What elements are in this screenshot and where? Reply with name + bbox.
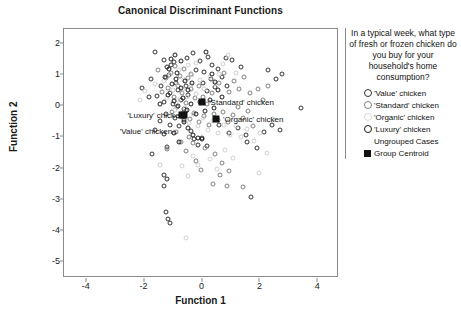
- data-point: [138, 97, 143, 102]
- x-tick-label: 4: [315, 281, 320, 291]
- legend-item[interactable]: Group Centroid: [349, 147, 457, 159]
- legend-item[interactable]: Ungrouped Cases: [349, 135, 457, 147]
- data-point: [172, 130, 177, 135]
- data-point: [266, 68, 271, 73]
- x-tick-label: 2: [257, 281, 262, 291]
- data-point: [202, 87, 207, 92]
- data-point: [226, 52, 231, 57]
- data-point: [255, 87, 260, 92]
- data-point: [213, 79, 218, 84]
- group-centroid-icon: [364, 150, 371, 157]
- data-point: [191, 141, 196, 146]
- data-point: [164, 209, 169, 214]
- data-point: [227, 169, 232, 174]
- y-tick-label: -1: [52, 131, 60, 141]
- data-point: [162, 78, 167, 83]
- data-point: [279, 72, 284, 77]
- legend-item[interactable]: 'Standard' chicken: [349, 99, 457, 111]
- data-point: [210, 181, 215, 186]
- data-point: [256, 171, 261, 176]
- data-point: [233, 124, 238, 129]
- open-circle-icon: [364, 125, 372, 133]
- y-tick-label: -5: [52, 256, 60, 266]
- y-tick-label: 0: [55, 100, 60, 110]
- data-point: [198, 77, 203, 82]
- data-point: [202, 108, 207, 113]
- y-tick-mark: [60, 74, 64, 75]
- data-point: [166, 93, 171, 98]
- legend-item[interactable]: 'Luxury' chicken: [349, 123, 457, 135]
- y-tick-mark: [60, 43, 64, 44]
- data-point: [216, 88, 221, 93]
- data-point: [194, 68, 199, 73]
- data-point: [278, 127, 283, 132]
- data-point: [181, 120, 186, 125]
- data-point: [245, 139, 250, 144]
- data-point: [157, 119, 162, 124]
- data-point: [205, 55, 210, 60]
- data-point: [178, 86, 183, 91]
- data-point: [251, 124, 256, 129]
- data-point: [209, 91, 214, 96]
- data-point: [209, 62, 214, 67]
- data-point: [264, 150, 269, 155]
- legend-item[interactable]: 'Organic' chicken: [349, 111, 457, 123]
- data-point: [190, 72, 195, 77]
- data-point: [152, 50, 157, 55]
- data-point: [189, 101, 194, 106]
- data-point: [221, 62, 226, 67]
- data-point: [200, 136, 205, 141]
- data-point: [169, 82, 174, 87]
- y-tick-label: -4: [52, 225, 60, 235]
- data-point: [190, 80, 195, 85]
- data-point: [201, 69, 206, 74]
- y-tick-mark: [60, 167, 64, 168]
- group-centroid-marker: [199, 99, 206, 106]
- group-centroid-label: 'Value' chicken: [120, 127, 172, 136]
- y-tick-label: -3: [52, 194, 60, 204]
- legend-item-label: Group Centroid: [374, 149, 429, 158]
- data-point: [240, 184, 245, 189]
- plot-frame: 'Luxury' chicken'Standard' chicken'Value…: [63, 28, 338, 277]
- legend-swatch-circle: [361, 101, 374, 109]
- y-tick-mark: [60, 136, 64, 137]
- data-point: [242, 74, 247, 79]
- legend-items: 'Value' chicken'Standard' chicken'Organi…: [349, 87, 457, 159]
- group-centroid-label: 'Luxury' chicken: [128, 110, 184, 119]
- x-tick-label: -4: [82, 281, 90, 291]
- data-point: [157, 163, 162, 168]
- legend-swatch-square: [361, 150, 374, 157]
- legend-item-label: 'Organic' chicken: [374, 113, 434, 122]
- data-point: [229, 58, 234, 63]
- data-point: [182, 78, 187, 83]
- data-point: [227, 132, 232, 137]
- data-point: [222, 70, 227, 75]
- data-point: [179, 163, 184, 168]
- legend-item[interactable]: 'Value' chicken: [349, 87, 457, 99]
- x-tick-label: 0: [199, 281, 204, 291]
- data-point: [186, 125, 191, 130]
- data-point: [161, 183, 166, 188]
- y-tick-mark: [60, 260, 64, 261]
- data-point: [214, 167, 219, 172]
- data-point: [156, 68, 161, 73]
- legend-item-label: Ungrouped Cases: [374, 137, 438, 146]
- data-point: [196, 124, 201, 129]
- data-point: [154, 93, 159, 98]
- data-point: [193, 92, 198, 97]
- group-centroid-label: 'Standard' chicken: [209, 98, 274, 107]
- data-point: [169, 57, 174, 62]
- y-tick-label: 2: [55, 38, 60, 48]
- open-circle-icon: [364, 101, 372, 109]
- data-point: [248, 91, 253, 96]
- data-point: [183, 149, 188, 154]
- data-point: [190, 153, 195, 158]
- data-point: [207, 156, 212, 161]
- data-point: [185, 95, 190, 100]
- data-point: [227, 90, 232, 95]
- data-point: [255, 146, 260, 151]
- data-point: [174, 70, 179, 75]
- y-tick-mark: [60, 198, 64, 199]
- data-point: [196, 163, 201, 168]
- data-point: [158, 83, 163, 88]
